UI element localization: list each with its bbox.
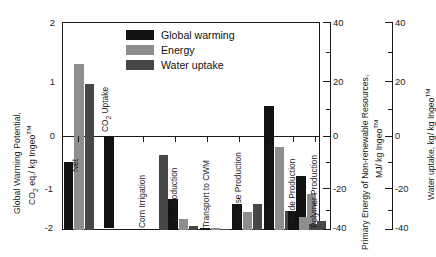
- legend-label-energy: Energy: [161, 44, 195, 56]
- r2-minor-tick-3: [388, 162, 392, 163]
- bar-group-net: [64, 22, 94, 230]
- bar-dextrose-energy: [243, 212, 252, 230]
- xcat-polymer-production: Polymer Production: [309, 155, 319, 228]
- r1-minor-tick-2: [326, 109, 330, 110]
- bar-dextrose-water-uptake: [253, 204, 262, 230]
- xtick-co2uptake: [110, 136, 111, 142]
- xtick-transport-cwm: [207, 136, 208, 142]
- left-tick-1: 1: [33, 76, 55, 87]
- xtick-net: [78, 136, 79, 142]
- r2-tick-0: 0: [395, 130, 419, 141]
- xtick-lactide: [293, 136, 294, 142]
- xcat-lactic-acid-production: Lactic Acid Production: [265, 146, 275, 228]
- left-axis-title-rest: eq./ kg Ingeo: [27, 135, 37, 188]
- xcat-co2-b: Uptake: [100, 87, 110, 116]
- r2-major-tick-m40: [385, 229, 392, 230]
- left-axis-title-tm: TM: [25, 126, 32, 135]
- xcat-net: Net: [70, 159, 80, 172]
- legend-swatch-global-warming: [126, 30, 154, 40]
- r1-tick-0: 0: [333, 130, 357, 141]
- right-axis-1: [330, 22, 331, 230]
- r1-title-text: MJ/ kg Ingeo: [374, 129, 384, 178]
- xcat-corn-production: Corn Production: [169, 167, 179, 228]
- r1-minor-tick-3: [326, 162, 330, 163]
- xtick-dextrose: [239, 136, 240, 142]
- xcat-corn-irrigation: Corn Irrigation: [137, 175, 147, 228]
- r2-minor-tick-2: [388, 109, 392, 110]
- xcat-co2-sub: 2: [105, 116, 112, 120]
- left-tick-m2: -2: [31, 222, 53, 233]
- right-axis-2-title: Water uptake, kg/ kg IngeoTM: [424, 89, 436, 200]
- r2-tick-m40: -40: [395, 222, 419, 233]
- r1-major-tick-0: [323, 136, 330, 137]
- xcat-co2-uptake: CO2 Uptake: [100, 87, 112, 132]
- bar-cornirrigation-water-uptake: [159, 155, 168, 230]
- bar-cornproduction-water-uptake: [189, 226, 198, 230]
- r1-major-tick-m20: [323, 188, 330, 189]
- xtick-polymer: [315, 136, 316, 142]
- r1-major-tick-m40: [323, 229, 330, 230]
- r2-tick-40: 40: [395, 17, 419, 28]
- right-axis-2: [392, 22, 393, 230]
- legend-item-water-uptake: Water uptake: [126, 58, 235, 72]
- left-axis-title-line1: Global Warming Potential,: [12, 112, 22, 214]
- xtick-corn-irrigation: [143, 136, 144, 142]
- bar-co2uptake-global-warming: [104, 136, 114, 228]
- bar-lacticacid-energy: [275, 147, 284, 230]
- r1-major-tick-20: [323, 81, 330, 82]
- bar-lactide-global-warming: [296, 176, 306, 230]
- legend-label-global-warming: Global warming: [161, 29, 235, 41]
- r1-major-tick-40: [323, 22, 330, 23]
- r2-major-tick-20: [385, 81, 392, 82]
- bar-transportcwm-global-warming: [200, 228, 210, 230]
- legend-item-global-warming: Global warming: [126, 28, 235, 42]
- r2-minor-tick-1: [388, 52, 392, 53]
- r1-tick-m20: -20: [333, 183, 357, 194]
- bar-net-water-uptake: [85, 84, 94, 230]
- r2-major-tick-0: [385, 136, 392, 137]
- xcat-lactide-production: Lactide Production: [287, 159, 297, 228]
- legend-label-water-uptake: Water uptake: [161, 59, 224, 71]
- r1-minor-tick-4: [326, 210, 330, 211]
- right-axis-1-title-line1: Primary Energy of Non-renewable Resource…: [360, 75, 370, 250]
- r2-title-tm: TM: [424, 89, 431, 98]
- r1-title-tm: TM: [372, 120, 379, 129]
- xtick-corn-production: [175, 136, 176, 142]
- bar-transportcwm-water-uptake: [221, 229, 230, 230]
- left-tick-2: 2: [33, 17, 55, 28]
- r2-tick-20: 20: [395, 76, 419, 87]
- r2-tick-m20: -20: [395, 183, 419, 194]
- legend-swatch-water-uptake: [126, 60, 154, 70]
- r2-major-tick-40: [385, 22, 392, 23]
- legend-swatch-energy: [126, 45, 154, 55]
- r1-tick-m40: -40: [333, 222, 357, 233]
- xcat-co2-a: CO: [100, 119, 110, 132]
- legend-item-energy: Energy: [126, 43, 235, 57]
- r1-tick-40: 40: [333, 17, 357, 28]
- xcat-transport-cwm: Transport to CWM: [201, 160, 211, 228]
- left-tick-0: 0: [33, 130, 55, 141]
- r2-major-tick-m20: [385, 188, 392, 189]
- r1-minor-tick-1: [326, 52, 330, 53]
- r2-title-text: Water uptake, kg/ kg Ingeo: [426, 98, 436, 200]
- left-tick-m1: -1: [31, 183, 53, 194]
- bar-cornproduction-energy: [179, 219, 188, 230]
- bar-net-global-warming: [64, 162, 73, 230]
- r2-minor-tick-4: [388, 210, 392, 211]
- xtick-lactic-acid: [271, 136, 272, 142]
- bar-net-energy: [74, 64, 84, 230]
- xcat-dextrose-production: Dextrose Production: [233, 152, 243, 228]
- right-axis-1-title-line2: MJ/ kg IngeoTM: [372, 120, 384, 178]
- bar-transportcwm-energy: [211, 228, 220, 230]
- r1-tick-20: 20: [333, 76, 357, 87]
- legend: Global warming Energy Water uptake: [126, 28, 235, 73]
